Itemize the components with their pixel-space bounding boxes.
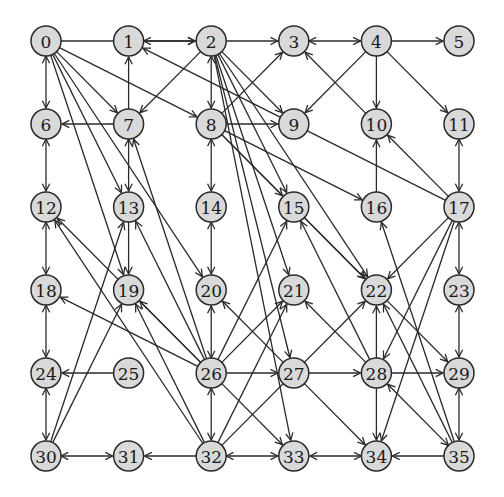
edge-30-13 <box>51 222 124 442</box>
node-label: 8 <box>206 115 217 135</box>
node-label: 34 <box>366 447 388 467</box>
node-1: 1 <box>114 26 144 56</box>
edge-32-19 <box>136 304 205 442</box>
edge-17-28 <box>384 220 453 358</box>
node-label: 5 <box>454 32 465 52</box>
node-18: 18 <box>31 275 61 305</box>
node-label: 35 <box>448 447 470 467</box>
edge-26-18 <box>60 297 198 366</box>
node-16: 16 <box>361 192 391 222</box>
node-26: 26 <box>196 358 226 388</box>
edge-28-15 <box>301 221 370 359</box>
node-label: 0 <box>41 32 52 52</box>
node-17: 17 <box>444 192 474 222</box>
node-label: 6 <box>41 115 52 135</box>
node-19: 19 <box>114 275 144 305</box>
node-21: 21 <box>279 275 309 305</box>
node-label: 29 <box>448 364 470 384</box>
node-label: 11 <box>448 115 470 135</box>
node-label: 30 <box>35 447 57 467</box>
edge-35-28 <box>388 384 449 445</box>
node-label: 3 <box>288 32 299 52</box>
node-25: 25 <box>114 358 144 388</box>
node-label: 2 <box>206 32 217 52</box>
graph-diagram: 0123456789101112131415161718192021222324… <box>0 0 504 497</box>
node-label: 10 <box>366 115 388 135</box>
node-2: 2 <box>196 26 226 56</box>
node-label: 1 <box>123 32 134 52</box>
node-8: 8 <box>196 109 226 139</box>
node-11: 11 <box>444 109 474 139</box>
node-22: 22 <box>361 275 391 305</box>
edge-layer <box>46 41 459 456</box>
node-label: 16 <box>366 198 388 218</box>
edge-8-16 <box>225 131 363 200</box>
node-label: 20 <box>200 281 222 301</box>
node-0: 0 <box>31 26 61 56</box>
node-29: 29 <box>444 358 474 388</box>
node-label: 33 <box>283 447 305 467</box>
node-label: 17 <box>448 198 470 218</box>
node-28: 28 <box>361 358 391 388</box>
node-20: 20 <box>196 275 226 305</box>
node-label: 9 <box>288 115 299 135</box>
node-15: 15 <box>279 192 309 222</box>
node-label: 18 <box>35 281 57 301</box>
node-label: 12 <box>35 198 57 218</box>
node-label: 24 <box>35 364 57 384</box>
node-label: 22 <box>366 281 388 301</box>
node-label: 25 <box>118 364 140 384</box>
edge-4-11 <box>387 52 448 113</box>
node-30: 30 <box>31 441 61 471</box>
node-34: 34 <box>361 441 391 471</box>
node-24: 24 <box>31 358 61 388</box>
edge-27-34 <box>304 384 365 445</box>
node-label: 23 <box>448 281 470 301</box>
node-4: 4 <box>361 26 391 56</box>
node-23: 23 <box>444 275 474 305</box>
edge-26-7 <box>134 139 207 359</box>
node-label: 21 <box>283 281 305 301</box>
node-12: 12 <box>31 192 61 222</box>
node-13: 13 <box>114 192 144 222</box>
node-35: 35 <box>444 441 474 471</box>
node-9: 9 <box>279 109 309 139</box>
node-label: 15 <box>283 198 305 218</box>
node-label: 26 <box>200 364 222 384</box>
edge-2-33 <box>214 56 291 441</box>
node-27: 27 <box>279 358 309 388</box>
node-7: 7 <box>114 109 144 139</box>
node-10: 10 <box>361 109 391 139</box>
node-5: 5 <box>444 26 474 56</box>
node-33: 33 <box>279 441 309 471</box>
node-label: 7 <box>123 115 134 135</box>
node-31: 31 <box>114 441 144 471</box>
edge-26-15 <box>218 221 287 359</box>
node-6: 6 <box>31 109 61 139</box>
node-14: 14 <box>196 192 226 222</box>
node-label: 31 <box>118 447 140 467</box>
node-label: 14 <box>200 198 222 218</box>
node-label: 19 <box>118 281 140 301</box>
node-label: 32 <box>200 447 222 467</box>
node-label: 13 <box>118 198 140 218</box>
node-label: 28 <box>366 364 388 384</box>
edge-26-13 <box>136 221 205 359</box>
edge-17-10 <box>388 135 449 196</box>
node-32: 32 <box>196 441 226 471</box>
node-3: 3 <box>279 26 309 56</box>
node-label: 4 <box>371 32 382 52</box>
edge-0-19 <box>51 55 124 275</box>
node-label: 27 <box>283 364 305 384</box>
